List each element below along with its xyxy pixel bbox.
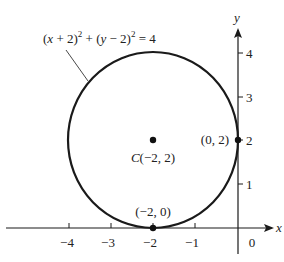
y-tick-label: 3 <box>246 90 253 105</box>
center-point <box>150 137 156 143</box>
equation-label: (x + 2)2 + (y − 2)2 = 4 <box>43 29 156 46</box>
point-neg2-0-label: (−2, 0) <box>135 204 171 219</box>
point-0-2 <box>235 137 241 143</box>
y-tick-label: 2 <box>246 133 253 148</box>
y-ticks <box>238 53 243 184</box>
y-tick-label: 1 <box>246 177 253 192</box>
point-0-2-label: (0, 2) <box>201 132 229 147</box>
x-tick-label: −4 <box>60 235 74 250</box>
equation-leader-line <box>66 50 88 81</box>
origin-label: 0 <box>249 235 256 250</box>
x-axis-label: x <box>275 220 282 235</box>
coordinate-plane: (x + 2)2 + (y − 2)2 = 4 C(−2, 2) (0, 2) … <box>0 0 284 262</box>
x-tick-label: −1 <box>185 235 199 250</box>
x-tick-label: −2 <box>143 235 157 250</box>
y-axis-label: y <box>232 10 240 25</box>
point-neg2-0 <box>150 225 156 231</box>
x-tick-label: −3 <box>101 235 115 250</box>
center-label: C(−2, 2) <box>131 150 175 165</box>
y-tick-label: 4 <box>246 46 253 61</box>
